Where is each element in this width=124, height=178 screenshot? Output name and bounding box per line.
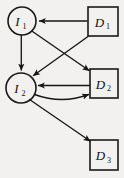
node-i1[interactable]: I 1 xyxy=(8,7,36,35)
node-d3[interactable]: D 3 xyxy=(90,140,118,170)
influence-diagram: I 1 I 2 D 1 D 2 xyxy=(0,0,124,178)
edge-i2-to-d2-curved xyxy=(35,95,89,100)
nodes-group: I 1 I 2 D 1 D 2 xyxy=(6,7,118,170)
node-d1[interactable]: D 1 xyxy=(88,7,118,36)
node-i2[interactable]: I 2 xyxy=(6,73,36,103)
node-d2[interactable]: D 2 xyxy=(90,69,118,98)
node-i2-subscript: 2 xyxy=(22,89,26,98)
node-i2-label: I xyxy=(13,81,19,96)
edge-i1-to-d2 xyxy=(33,32,90,71)
node-d3-label: D xyxy=(95,148,106,163)
node-i1-label: I xyxy=(14,14,20,29)
edges-group xyxy=(21,21,90,141)
node-d3-subscript: 3 xyxy=(107,156,111,165)
node-d2-subscript: 2 xyxy=(107,84,111,93)
node-i1-subscript: 1 xyxy=(23,22,27,31)
diagram-canvas: I 1 I 2 D 1 D 2 xyxy=(0,0,124,178)
node-d2-label: D xyxy=(95,77,106,92)
node-d1-label: D xyxy=(94,15,105,30)
edge-d1-to-i2 xyxy=(34,37,89,76)
edge-i2-to-d3 xyxy=(30,100,91,142)
node-d1-subscript: 1 xyxy=(106,22,110,31)
